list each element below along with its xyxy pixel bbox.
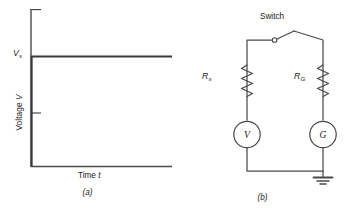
wire-bottom-left: [247, 148, 323, 171]
panel-b-caption: (b): [175, 193, 350, 202]
panel-a-voltage-plot: Voltage V Time t Vs (a): [0, 0, 175, 213]
meter-galvanometer-label: G: [320, 130, 327, 140]
voltage-level-label: Vs: [13, 48, 22, 58]
resistor-rs-subscript: s: [208, 75, 211, 82]
y-axis-label-text: Voltage: [15, 100, 24, 130]
panel-a-caption: (a): [0, 188, 175, 197]
voltage-level-subscript: s: [19, 52, 22, 59]
switch-contact-left-icon[interactable]: [272, 38, 277, 43]
x-axis-label-symbol: t: [98, 171, 100, 180]
switch-label: Switch: [260, 12, 284, 21]
voltage-time-plot-graphic: [0, 0, 175, 213]
panel-b-circuit-diagram: V G Switch Rs RG: [175, 0, 350, 213]
switch-blade-icon[interactable]: [277, 31, 294, 39]
x-axis-label: Time t: [78, 171, 100, 180]
resistor-rg-subscript: G: [300, 75, 305, 82]
voltage-level-symbol: V: [13, 48, 19, 58]
x-axis-label-text: Time: [78, 171, 98, 180]
figure-root: Voltage V Time t Vs (a): [0, 0, 350, 213]
y-axis-label: Voltage V: [15, 78, 24, 148]
wire-top-left: [247, 40, 272, 120]
circuit-schematic-graphic: V G: [175, 0, 350, 213]
resistor-rs-label: Rs: [202, 71, 211, 81]
resistor-rg-label: RG: [294, 71, 305, 81]
y-axis-label-symbol: V: [15, 95, 24, 101]
